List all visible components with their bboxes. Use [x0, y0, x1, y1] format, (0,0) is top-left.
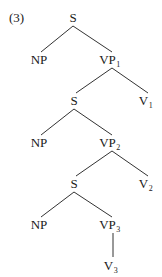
tree-node-s0: S [69, 10, 76, 25]
node-subscript: 2 [149, 184, 153, 193]
tree-edge-s0-np0 [41, 26, 73, 52]
tree-edge-vp2-s2 [76, 151, 112, 176]
node-subscript: 1 [116, 60, 120, 69]
node-label: S [70, 176, 77, 191]
tree-node-np2: NP [31, 217, 48, 232]
tree-node-v3: V3 [104, 258, 118, 275]
tree-node-v1: V1 [139, 93, 153, 110]
node-subscript: 2 [116, 143, 120, 152]
tree-edge-s2-np2 [41, 192, 74, 217]
node-subscript: 1 [149, 101, 153, 110]
node-label: NP [31, 217, 48, 232]
node-label: VP [99, 135, 116, 150]
tree-node-vp2: VP2 [99, 135, 120, 152]
tree-node-v2: V2 [139, 176, 153, 193]
node-label: NP [31, 52, 48, 67]
tree-edge-s1-vp2 [74, 109, 112, 135]
tree-edge-vp1-v1 [112, 68, 148, 93]
tree-edge-s1-np1 [41, 109, 74, 135]
tree-node-s1: S [70, 93, 77, 108]
node-subscript: 3 [116, 225, 120, 234]
example-number: (3) [9, 10, 24, 25]
tree-node-np1: NP [31, 135, 48, 150]
node-label: VP [99, 217, 116, 232]
tree-edges [41, 26, 148, 257]
node-label: NP [31, 135, 48, 150]
tree-node-vp3: VP3 [99, 217, 120, 234]
node-label: VP [99, 52, 116, 67]
node-label: V [139, 93, 149, 108]
tree-edge-s2-vp3 [74, 192, 112, 217]
tree-edge-s0-vp1 [73, 26, 112, 52]
node-label: S [69, 10, 76, 25]
syntax-tree: (3) SNPVP1SV1NPVP2SV2NPVP3V3 [0, 0, 162, 277]
tree-node-vp1: VP1 [99, 52, 120, 69]
tree-node-np0: NP [31, 52, 48, 67]
tree-nodes: SNPVP1SV1NPVP2SV2NPVP3V3 [31, 10, 153, 275]
node-label: S [70, 93, 77, 108]
tree-node-s2: S [70, 176, 77, 191]
node-subscript: 3 [114, 266, 118, 275]
node-label: V [139, 176, 149, 191]
node-label: V [104, 258, 114, 273]
tree-edge-vp2-v2 [112, 151, 148, 176]
tree-edge-vp1-s1 [76, 68, 112, 93]
